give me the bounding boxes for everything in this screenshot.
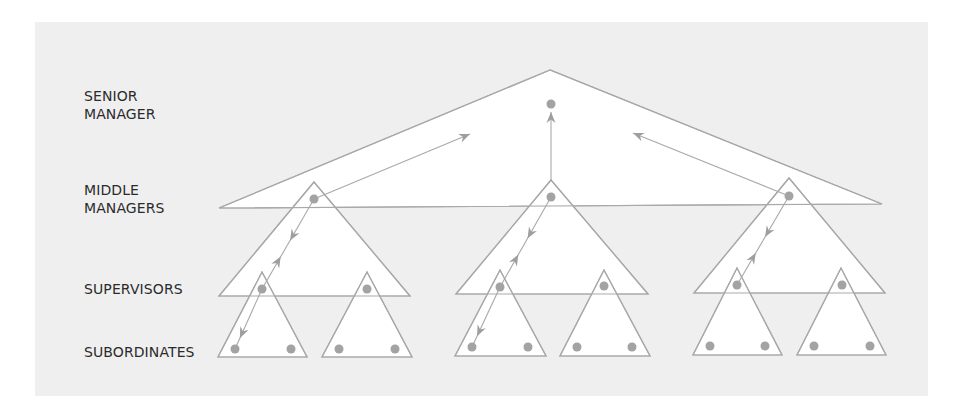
subordinate-dot bbox=[761, 342, 770, 351]
label-middle-line1: MIDDLE bbox=[84, 181, 165, 199]
subordinate-dot bbox=[335, 345, 344, 354]
supervisor-dot bbox=[258, 285, 267, 294]
subordinate-dot bbox=[231, 345, 240, 354]
label-senior-manager: SENIOR MANAGER bbox=[84, 87, 156, 123]
supervisor-dot bbox=[600, 282, 609, 291]
middle-manager-dot bbox=[547, 193, 556, 202]
label-supervisors: SUPERVISORS bbox=[84, 280, 183, 298]
label-middle-managers: MIDDLE MANAGERS bbox=[84, 181, 165, 217]
subordinate-dot bbox=[866, 342, 875, 351]
subordinate-dot bbox=[706, 342, 715, 351]
supervisor-dot bbox=[496, 283, 505, 292]
middle-manager-dot bbox=[310, 195, 319, 204]
subordinate-dot bbox=[287, 345, 296, 354]
subordinate-dot bbox=[468, 343, 477, 352]
supervisor-dot bbox=[363, 285, 372, 294]
subordinate-dot bbox=[810, 342, 819, 351]
label-senior-line1: SENIOR bbox=[84, 87, 156, 105]
subordinate-dot bbox=[573, 343, 582, 352]
subordinate-dot bbox=[524, 343, 533, 352]
label-middle-line2: MANAGERS bbox=[84, 199, 165, 217]
label-subordinates: SUBORDINATES bbox=[84, 343, 195, 361]
subordinate-dot bbox=[391, 345, 400, 354]
middle-manager-dot bbox=[785, 192, 794, 201]
label-senior-line2: MANAGER bbox=[84, 105, 156, 123]
senior-manager-dot bbox=[547, 100, 556, 109]
supervisor-dot bbox=[838, 281, 847, 290]
subordinate-dot bbox=[628, 343, 637, 352]
supervisor-dot bbox=[733, 281, 742, 290]
